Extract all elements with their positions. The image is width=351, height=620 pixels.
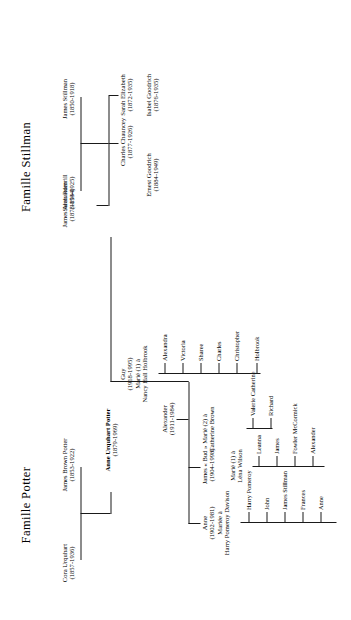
genealogy-chart: Famille Potter Famille Stillman James Br… <box>0 0 351 620</box>
child-holbrook: Holbrook <box>252 337 259 362</box>
child-charles: Charles <box>214 341 221 361</box>
child-richard: Richard <box>266 396 273 416</box>
child-john: John <box>262 498 269 510</box>
anne-kid-tick-1 <box>266 512 267 523</box>
anne-kid-tick-4 <box>320 512 321 523</box>
child-label: Leanna <box>254 435 261 454</box>
sibling-bar-stillman <box>108 96 109 206</box>
james-brown-potter-name: James Brown Potter <box>60 422 67 508</box>
stub-james-alexander <box>96 205 108 206</box>
isabel-goodrich-dates: (1876-1935) <box>151 58 158 132</box>
ernest-goodrich-name: Ernest Goodrich <box>144 138 151 212</box>
title-stillman-text: Famille Stillman <box>18 122 32 212</box>
guy-dates: (1918-1995) <box>125 332 132 416</box>
bud-m1-kid-tick-3 <box>312 456 313 467</box>
child-label: James <box>272 438 279 454</box>
node-guy: Guy (1918-1995) Marié (1) à Nancy Hall H… <box>118 332 148 416</box>
guy-name: Guy <box>118 332 125 416</box>
guy-kid-tick-3 <box>218 363 219 374</box>
bud-m1-kid-tick-2 <box>294 456 295 467</box>
child-alexandra: Alexandra <box>160 334 167 361</box>
james-stillman-dates: (1850-1918) <box>67 60 74 138</box>
guy-kid-tick-0 <box>164 363 165 374</box>
anne-urquhart-potter-name: Anne Urquhart Potter <box>103 390 110 490</box>
cora-urquhart-name: Cora Urquhart <box>60 524 67 602</box>
anne-kid-tick-0 <box>248 512 249 523</box>
child-label: Fowler McCormick <box>290 403 297 454</box>
node-bud-marriage-2: Marié (2) à Catherine Brown <box>200 390 215 468</box>
child-label: Charles <box>214 341 221 361</box>
alexander-1911-name: Alexander <box>160 386 167 452</box>
node-alexander-1911: Alexander (1911-1984) <box>160 386 175 452</box>
child-harry-pomeroy: Harry Pomeroy <box>244 470 251 510</box>
bud-marriage1-spouse: Léna Wilson <box>235 432 242 500</box>
stub-guy <box>176 381 188 382</box>
bud-marriage1-label: Marié (1) à <box>228 432 235 500</box>
alexander-1911-dates: (1911-1984) <box>167 386 174 452</box>
stub-james-bud <box>188 467 200 468</box>
bud-marriage2-label: Marié (2) à <box>200 390 207 468</box>
child-victoria: Victoria <box>178 340 185 361</box>
node-cora-urquhart: Cora Urquhart (1857-1936) <box>60 524 75 602</box>
anne-davison-children-bar <box>240 522 336 523</box>
child-label: John <box>262 498 269 510</box>
child-label: Alexander <box>308 427 315 454</box>
child-alexander-bud: Alexander <box>308 427 315 454</box>
child-james-stillman: James Stillman <box>280 471 287 510</box>
marriage-line-stillman <box>80 97 81 191</box>
node-charles-chauncey: Charles Chauncey (1877-1926) <box>118 104 133 180</box>
node-james-stillman: James Stillman (1850-1918) <box>60 60 75 138</box>
child-label: Holbrook <box>252 337 259 362</box>
child-christopher: Christopher <box>232 331 239 361</box>
anne-davison-marriage-label: Mariée à <box>215 480 222 566</box>
descent-spine-stillman <box>80 143 108 144</box>
union-line-potter-stillman <box>110 237 111 382</box>
james-alexander-name: James Alexander <box>60 168 67 242</box>
bud-m2-kid-tick-0 <box>252 418 253 429</box>
child-label: Victoria <box>178 340 185 361</box>
guy-marriage-label: Marié (1) à <box>133 332 140 416</box>
child-label: Frances <box>298 490 305 510</box>
connector-anne-potter <box>110 492 111 514</box>
generation3-sibling-bar <box>188 382 189 524</box>
title-potter-text: Famille Potter <box>18 467 32 544</box>
ernest-goodrich-dates: (1884-1949) <box>151 138 158 212</box>
node-james-alexander: James Alexander (1873-1944) <box>60 168 75 242</box>
isabel-goodrich-name: Isabel Goodrich <box>144 58 151 132</box>
child-label: Anne <box>316 496 323 510</box>
child-label: Alexandra <box>160 334 167 361</box>
stub-anne-davison <box>188 523 200 524</box>
anne-urquhart-potter-dates: (1879-1969) <box>110 390 117 490</box>
bud-m1-kid-tick-1 <box>276 456 277 467</box>
james-brown-potter-dates: (1853-1922) <box>67 422 74 508</box>
child-james-bud-son: James <box>272 438 279 454</box>
node-isabel-goodrich: Isabel Goodrich (1876-1935) <box>144 58 159 132</box>
cora-urquhart-dates: (1857-1936) <box>67 524 74 602</box>
anne-kid-tick-3 <box>302 512 303 523</box>
child-anne: Anne <box>316 496 323 510</box>
guy-kid-tick-1 <box>182 363 183 374</box>
bud-marriage2-spouse: Catherine Brown <box>207 390 214 468</box>
guy-kid-tick-2 <box>200 363 201 374</box>
bud-m1-kid-tick-0 <box>258 456 259 467</box>
bud-m2-children-bar <box>246 428 272 429</box>
child-label: Richard <box>266 396 273 416</box>
child-fowler-mccormick: Fowler McCormick <box>290 403 297 454</box>
node-ernest-goodrich: Ernest Goodrich (1884-1949) <box>144 138 159 212</box>
stub-alexander <box>176 419 188 420</box>
guy-children-bar <box>158 373 260 374</box>
james-alexander-dates: (1873-1944) <box>67 168 74 242</box>
child-label: Sharee <box>196 344 203 361</box>
node-anne-urquhart-potter: Anne Urquhart Potter (1879-1969) <box>103 390 118 490</box>
child-sharee: Sharee <box>196 344 203 361</box>
child-label: Harry Pomeroy <box>244 470 251 510</box>
node-bud-marriage-1: Marié (1) à Léna Wilson <box>228 432 243 500</box>
child-label: Valerie Catherine <box>248 371 255 416</box>
descent-line-potter <box>80 513 110 514</box>
child-label: James Stillman <box>280 471 287 510</box>
guy-kid-tick-4 <box>236 363 237 374</box>
child-frances: Frances <box>298 490 305 510</box>
node-james-brown-potter: James Brown Potter (1853-1922) <box>60 422 75 508</box>
guy-spouse: Nancy Hall Holbrook <box>140 332 147 416</box>
anne-kid-tick-2 <box>284 512 285 523</box>
